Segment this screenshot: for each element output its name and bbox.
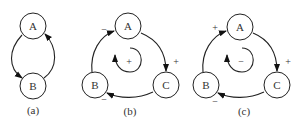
edge-c-to-b bbox=[107, 92, 153, 97]
diagram-c: A B C + + − − (c) bbox=[193, 14, 291, 118]
diagram-b: A B C − + − + (b) bbox=[82, 13, 179, 118]
sign-b-to-a: − bbox=[101, 24, 107, 35]
sign-b-to-a: + bbox=[212, 22, 218, 33]
sign-a-to-c: + bbox=[285, 56, 291, 67]
edge-a-to-c bbox=[141, 33, 166, 71]
node-a-label: A bbox=[236, 21, 244, 33]
caption-b: (b) bbox=[124, 105, 137, 118]
edge-c-to-b bbox=[218, 92, 264, 97]
loop-sign: − bbox=[238, 56, 244, 67]
diagram-a: A B (a) bbox=[12, 13, 55, 117]
node-a-label: A bbox=[29, 20, 37, 32]
edge-b-to-a bbox=[203, 31, 226, 72]
edge-b-to-a bbox=[44, 34, 55, 78]
node-c-label: C bbox=[273, 79, 280, 91]
sign-c-to-b: − bbox=[212, 96, 218, 107]
sign-a-to-c: + bbox=[173, 56, 179, 67]
edge-a-to-c bbox=[253, 33, 277, 71]
node-b-label: B bbox=[202, 79, 209, 91]
loop-sign: + bbox=[126, 56, 132, 67]
edge-b-to-a bbox=[92, 31, 114, 72]
caption-c: (c) bbox=[238, 105, 251, 118]
node-b-label: B bbox=[29, 80, 36, 92]
node-b-label: B bbox=[91, 79, 98, 91]
edge-a-to-b bbox=[12, 35, 23, 78]
node-a-label: A bbox=[124, 20, 132, 32]
caption-a: (a) bbox=[27, 104, 40, 117]
sign-c-to-b: − bbox=[101, 94, 107, 105]
causal-loop-figure: A B (a) A B C − + − + (b) A B C + + − bbox=[0, 0, 301, 124]
node-c-label: C bbox=[162, 79, 169, 91]
